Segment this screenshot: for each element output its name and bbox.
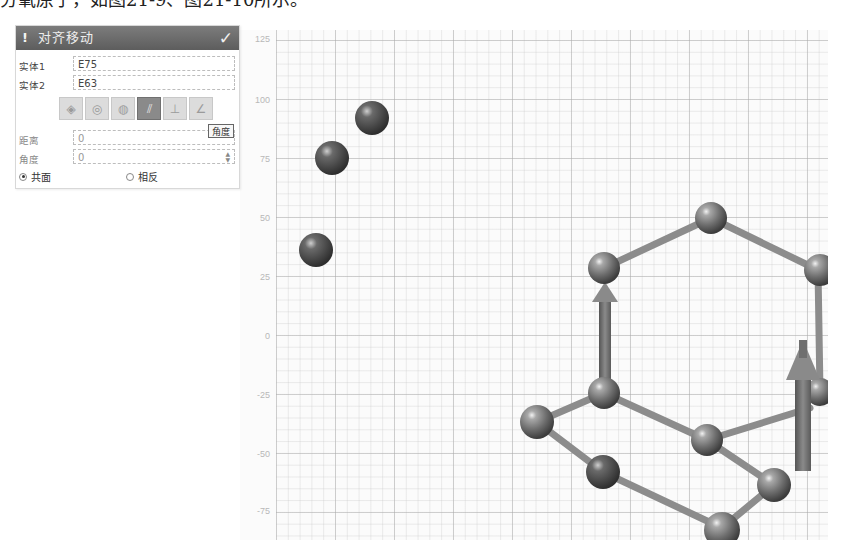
alignment-mode-radios: 共面 相反 bbox=[16, 169, 239, 185]
align-face-tool-button[interactable]: ◈ bbox=[59, 97, 83, 120]
opposite-radio[interactable]: 相反 bbox=[126, 169, 158, 184]
molecule-scene[interactable] bbox=[240, 30, 828, 540]
angle-field[interactable]: 0 ▲▼ bbox=[73, 149, 235, 164]
entity2-label: 实体2 bbox=[19, 78, 45, 92]
entity2-field[interactable]: E63 bbox=[73, 75, 235, 90]
distance-row: 距离 0 bbox=[16, 129, 239, 149]
align-angle-tool-button[interactable]: ∠ bbox=[189, 97, 213, 120]
alignment-toolbar: ◈ ◎ ◍ ⫽ ⊥ ∠ bbox=[59, 97, 213, 122]
entity1-row: 实体1 E75 bbox=[16, 55, 239, 75]
radio-unselected-icon bbox=[126, 173, 134, 181]
align-move-panel: ! 对齐移动 ✓ 实体1 E75 实体2 E63 ◈ ◎ ◍ ⫽ ⊥ ∠ 距离 … bbox=[15, 25, 240, 189]
coplanar-label: 共面 bbox=[31, 169, 51, 184]
entity1-label: 实体1 bbox=[19, 59, 45, 73]
angle-label: 角度 bbox=[19, 152, 39, 166]
entity1-field[interactable]: E75 bbox=[73, 56, 235, 71]
align-center-tool-button[interactable]: ◎ bbox=[85, 97, 109, 120]
entity2-row: 实体2 E63 bbox=[16, 74, 239, 94]
document-caption: 分氧原子，如图21-9、图21-10所示。 bbox=[0, 0, 845, 12]
confirm-check-icon[interactable]: ✓ bbox=[219, 26, 233, 50]
atoms bbox=[299, 101, 828, 540]
panel-title-bar: ! 对齐移动 ✓ bbox=[16, 26, 239, 50]
panel-title: 对齐移动 bbox=[38, 26, 94, 50]
move-direction-arrow[interactable] bbox=[592, 282, 618, 392]
opposite-label: 相反 bbox=[138, 169, 158, 184]
3d-viewport[interactable]: 125 100 75 50 25 0 -25 -50 -75 bbox=[240, 30, 828, 540]
coplanar-radio[interactable]: 共面 bbox=[19, 169, 51, 184]
warning-icon: ! bbox=[22, 26, 28, 50]
distance-label: 距离 bbox=[19, 133, 39, 147]
align-parallel-tool-button[interactable]: ⫽ bbox=[137, 97, 161, 120]
angle-value: 0 bbox=[78, 152, 84, 163]
angle-spinner[interactable]: ▲▼ bbox=[225, 151, 230, 163]
angle-row: 角度 0 ▲▼ bbox=[16, 148, 239, 168]
align-point-tool-button[interactable]: ⊥ bbox=[163, 97, 187, 120]
align-axis-tool-button[interactable]: ◍ bbox=[111, 97, 135, 120]
move-direction-arrow[interactable] bbox=[786, 340, 820, 471]
radio-selected-icon bbox=[19, 173, 27, 181]
angle-tooltip: 角度 bbox=[208, 124, 234, 138]
